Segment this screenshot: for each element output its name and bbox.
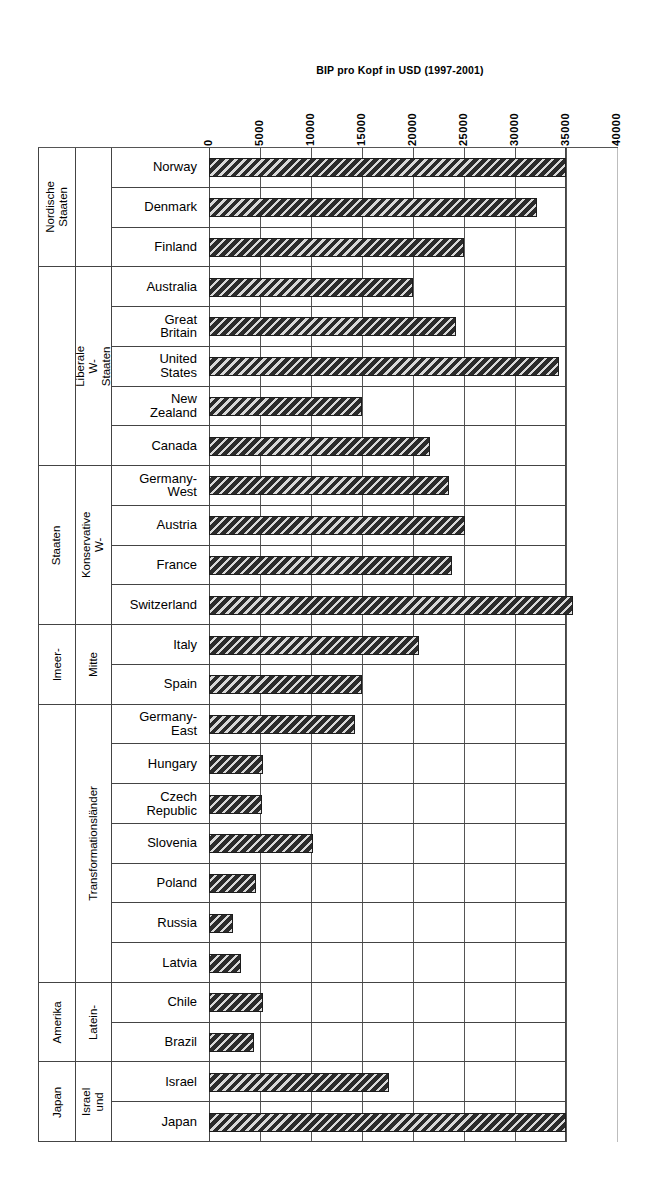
chart-row: Russia xyxy=(111,903,566,943)
category-label: Australia xyxy=(111,267,203,306)
category-label: Germany- West xyxy=(111,466,203,505)
bar xyxy=(209,993,263,1012)
bar xyxy=(209,476,449,495)
group-label-text: lmeer- xyxy=(51,646,64,682)
category-label: Czech Republic xyxy=(111,784,203,823)
group-label-inner: Transformationsländer xyxy=(75,705,111,983)
category-label: Israel xyxy=(111,1062,203,1101)
category-label: Denmark xyxy=(111,188,203,227)
bar xyxy=(209,158,566,177)
group-label-text: Transformationsländer xyxy=(87,786,100,901)
group-label-text: Konservative W- xyxy=(80,512,106,578)
x-tick-label: 20000 xyxy=(406,113,418,146)
category-label: Germany- East xyxy=(111,705,203,744)
group-label-outer: lmeer- xyxy=(39,625,75,705)
bar-chart: BIP pro Kopf in USD (1997-2001) 05000100… xyxy=(0,0,658,1201)
bar xyxy=(209,437,430,456)
chart-row: Poland xyxy=(111,864,566,904)
bar xyxy=(209,397,362,416)
x-axis-ticks: 0500010000150002000025000300003500040000 xyxy=(0,86,658,148)
group-label-text: Latein- xyxy=(87,1004,100,1040)
category-label: Slovenia xyxy=(111,824,203,863)
category-label: Spain xyxy=(111,665,203,704)
category-label: Japan xyxy=(111,1102,203,1142)
chart-title: BIP pro Kopf in USD (1997-2001) xyxy=(200,64,600,76)
bar xyxy=(209,238,464,257)
category-label: France xyxy=(111,546,203,585)
group-label-text: Japan xyxy=(51,1084,64,1120)
x-tick-label: 15000 xyxy=(355,113,367,146)
bar xyxy=(209,278,413,297)
category-label: Russia xyxy=(111,903,203,942)
category-label: Canada xyxy=(111,426,203,465)
group-label-outer: Amerika xyxy=(39,983,75,1063)
group-label-inner: Mitte xyxy=(75,625,111,705)
bar xyxy=(209,1113,566,1132)
category-label: Great Britain xyxy=(111,307,203,346)
bar xyxy=(209,874,256,893)
group-label-inner: Liberale W-Staaten xyxy=(75,267,111,466)
bar xyxy=(209,715,355,734)
group-label-inner xyxy=(75,148,111,267)
chart-row: Czech Republic xyxy=(111,784,566,824)
group-label-text: Amerika xyxy=(51,1001,64,1043)
gridline-40000 xyxy=(617,148,618,1142)
category-label: Switzerland xyxy=(111,585,203,624)
chart-row: Hungary xyxy=(111,744,566,784)
gridline xyxy=(566,148,567,1142)
x-tick-label: 35000 xyxy=(559,113,571,146)
group-label-inner: Latein- xyxy=(75,983,111,1063)
bar xyxy=(209,198,537,217)
chart-row: Chile xyxy=(111,983,566,1023)
category-label: New Zealand xyxy=(111,387,203,426)
category-label: Hungary xyxy=(111,744,203,783)
bar xyxy=(209,636,419,655)
bar xyxy=(209,317,456,336)
group-label-outer: Japan xyxy=(39,1062,75,1142)
bar xyxy=(209,596,573,615)
bar xyxy=(209,914,233,933)
chart-row: Brazil xyxy=(111,1023,566,1063)
group-label-text: Liberale W-Staaten xyxy=(75,346,111,387)
x-tick-label: 40000 xyxy=(610,113,622,146)
chart-row: Latvia xyxy=(111,943,566,983)
category-label: United States xyxy=(111,347,203,386)
chart-row: Slovenia xyxy=(111,824,566,864)
x-tick-label: 30000 xyxy=(508,113,520,146)
bar xyxy=(209,1073,389,1092)
bar xyxy=(209,1033,254,1052)
category-label: Italy xyxy=(111,625,203,664)
bar xyxy=(209,755,263,774)
group-label-text: Mitte xyxy=(87,646,100,682)
group-label-outer xyxy=(39,267,75,466)
category-label: Poland xyxy=(111,864,203,903)
category-label: Austria xyxy=(111,506,203,545)
bar xyxy=(209,675,362,694)
x-tick-label: 0 xyxy=(202,139,214,146)
category-label: Norway xyxy=(111,148,203,187)
group-label-outer: Nordische Staaten xyxy=(39,148,75,267)
bar xyxy=(209,834,313,853)
bar xyxy=(209,954,241,973)
bar xyxy=(209,556,452,575)
x-tick-label: 25000 xyxy=(457,113,469,146)
group-label-inner: Konservative W- xyxy=(75,466,111,625)
group-label-text: Israel und xyxy=(80,1084,106,1120)
bar xyxy=(209,516,465,535)
group-label-outer: Staaten xyxy=(39,466,75,625)
category-label: Latvia xyxy=(111,943,203,982)
x-tick-label: 10000 xyxy=(304,113,316,146)
group-label-text: Nordische Staaten xyxy=(44,181,70,233)
group-label-text: Staaten xyxy=(51,525,64,565)
category-label: Brazil xyxy=(111,1023,203,1062)
category-label: Finland xyxy=(111,228,203,267)
x-tick-label: 5000 xyxy=(253,120,265,146)
bar xyxy=(209,357,559,376)
category-label: Chile xyxy=(111,983,203,1022)
group-label-inner: Israel und xyxy=(75,1062,111,1142)
group-label-outer xyxy=(39,705,75,983)
bar xyxy=(209,795,262,814)
